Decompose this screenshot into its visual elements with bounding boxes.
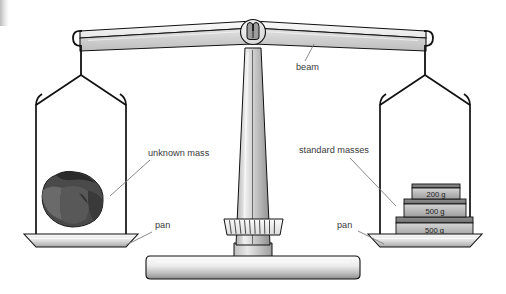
graduated-indicator bbox=[224, 219, 283, 235]
label-pan-right: pan bbox=[337, 220, 352, 230]
weight-top-top bbox=[412, 184, 460, 188]
leader-standard-masses bbox=[350, 158, 396, 206]
stand-base bbox=[146, 243, 360, 279]
diagram-canvas: 500 g 500 g 200 g beam unknown mass bbox=[0, 0, 506, 294]
pan-right-plate bbox=[368, 234, 482, 247]
center-column bbox=[236, 48, 270, 245]
label-beam: beam bbox=[296, 62, 319, 72]
pan-left bbox=[24, 234, 138, 247]
weight-top: 200 g bbox=[412, 184, 460, 199]
pan-left-plate bbox=[24, 234, 138, 247]
weight-middle-label: 500 g bbox=[425, 207, 444, 216]
weight-middle-top bbox=[404, 199, 466, 204]
weight-middle: 500 g bbox=[404, 199, 466, 217]
scan-edge-artifact bbox=[0, 0, 9, 26]
leader-unknown-mass bbox=[110, 160, 150, 196]
standard-masses-stack: 500 g 500 g 200 g bbox=[396, 184, 473, 237]
rock-facet-center bbox=[60, 186, 90, 224]
balance-scale-diagram: 500 g 500 g 200 g beam unknown mass bbox=[0, 0, 506, 294]
label-standard-masses: standard masses bbox=[299, 145, 369, 155]
weight-bottom-top bbox=[396, 217, 473, 223]
weight-top-label: 200 g bbox=[426, 190, 445, 199]
label-pan-left: pan bbox=[155, 220, 170, 230]
pan-right bbox=[368, 234, 482, 247]
pivot-housing bbox=[241, 20, 266, 45]
base-bar bbox=[146, 256, 360, 279]
label-unknown-mass: unknown mass bbox=[148, 148, 210, 158]
rock-specimen bbox=[42, 171, 103, 227]
